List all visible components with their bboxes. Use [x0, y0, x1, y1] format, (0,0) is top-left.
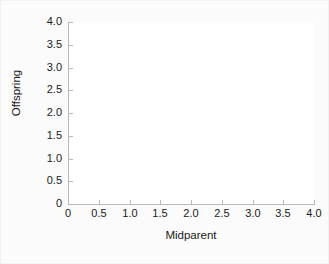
- y-tick-mark: [69, 90, 73, 91]
- y-tick-mark: [69, 22, 73, 23]
- y-tick-label: 4.0: [29, 15, 62, 27]
- x-tick-mark: [99, 200, 100, 204]
- y-tick-label: 1.0: [29, 152, 62, 164]
- y-tick-label: 1.5: [29, 129, 62, 141]
- x-axis-title: Midparent: [68, 229, 314, 241]
- y-tick-mark: [69, 204, 73, 205]
- x-tick-mark: [253, 200, 254, 204]
- y-tick-mark: [69, 181, 73, 182]
- chart-figure: 00.51.01.52.02.53.03.54.0 00.51.01.52.02…: [0, 0, 329, 264]
- y-tick-label: 2.0: [29, 106, 62, 118]
- y-tick-label: 3.5: [29, 38, 62, 50]
- x-tick-mark: [160, 200, 161, 204]
- y-tick-mark: [69, 45, 73, 46]
- plot-area: [68, 22, 314, 204]
- y-tick-label: 0.5: [29, 174, 62, 186]
- y-tick-mark: [69, 113, 73, 114]
- x-tick-mark: [68, 200, 69, 204]
- y-tick-mark: [69, 136, 73, 137]
- y-tick-label: 3.0: [29, 61, 62, 73]
- y-tick-label: 2.5: [29, 83, 62, 95]
- x-tick-mark: [283, 200, 284, 204]
- y-tick-mark: [69, 159, 73, 160]
- x-tick-mark: [191, 200, 192, 204]
- x-tick-mark: [130, 200, 131, 204]
- y-axis-title: Offspring: [10, 53, 22, 133]
- y-tick-mark: [69, 68, 73, 69]
- x-axis-line: [68, 204, 315, 205]
- x-tick-label: 4.0: [294, 207, 329, 219]
- x-tick-mark: [222, 200, 223, 204]
- x-tick-mark: [314, 200, 315, 204]
